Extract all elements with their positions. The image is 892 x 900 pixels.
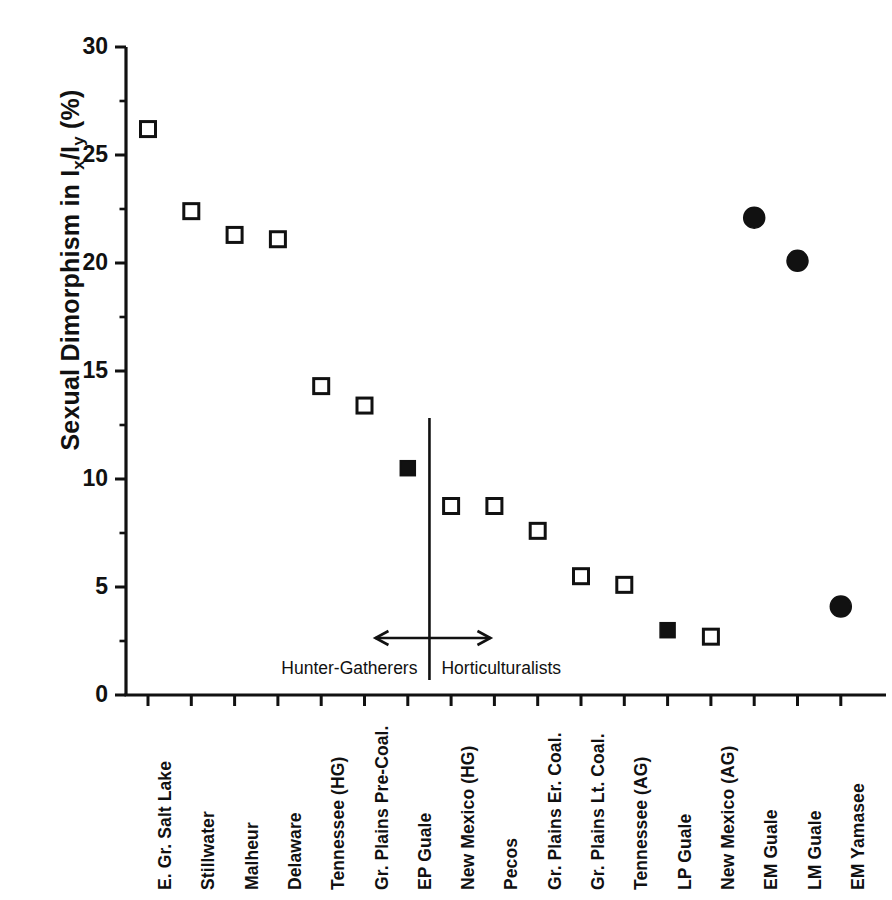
x-axis-tick-label-16: LM Guale [805, 810, 826, 890]
data-point-gr-plains-er-coal [530, 523, 545, 538]
x-axis-tick-label-15: EM Guale [761, 809, 782, 890]
data-point-lm-guale [787, 250, 808, 271]
data-point-new-mexico-hg [444, 499, 459, 514]
x-axis-tick-label-2: Stillwater [198, 811, 219, 890]
x-axis-tick-label-13: LP Guale [675, 814, 696, 890]
x-axis-tick-label-5: Tennessee (HG) [328, 757, 349, 890]
x-axis-tick-label-9: Pecos [501, 838, 522, 890]
x-axis-tick-label-1: E. Gr. Salt Lake [155, 761, 176, 890]
data-point-e-gr-salt-lake [141, 122, 156, 137]
x-axis-tick-label-10: Gr. Plains Er. Coal. [545, 732, 566, 890]
data-point-stillwater [184, 204, 199, 219]
annotation-hunter-gatherers: Hunter-Gatherers [281, 658, 417, 679]
data-point-em-guale [744, 207, 765, 228]
plot-area [0, 0, 892, 900]
x-axis-tick-label-8: New Mexico (HG) [458, 746, 479, 890]
data-point-gr-plains-pre-coal [357, 398, 372, 413]
data-point-gr-plains-lt-coal [574, 569, 589, 584]
data-point-em-yamasee [830, 596, 851, 617]
data-point-malheur [227, 227, 242, 242]
data-point-pecos [487, 499, 502, 514]
data-point-tennessee-hg [314, 379, 329, 394]
x-axis-tick-label-12: Tennessee (AG) [631, 757, 652, 890]
data-point-lp-guale [660, 623, 675, 638]
x-axis-tick-label-4: Delaware [285, 812, 306, 890]
data-point-ep-guale [400, 461, 415, 476]
data-point-tennessee-ag [617, 577, 632, 592]
annotation-horticulturalists: Horticulturalists [441, 658, 561, 679]
x-axis-tick-label-11: Gr. Plains Lt. Coal. [588, 733, 609, 890]
data-point-new-mexico-ag [703, 629, 718, 644]
x-axis-tick-label-6: Gr. Plains Pre-Coal. [372, 726, 393, 890]
x-axis-tick-label-3: Malheur [242, 822, 263, 890]
x-axis-tick-label-7: EP Guale [415, 813, 436, 890]
chart-figure: Sexual Dimorphism in Ix/Iy (%) 051015202… [0, 0, 892, 900]
x-axis-tick-label-14: New Mexico (AG) [718, 746, 739, 890]
x-axis-tick-label-17: EM Yamasee [848, 783, 869, 890]
data-point-delaware [270, 232, 285, 247]
